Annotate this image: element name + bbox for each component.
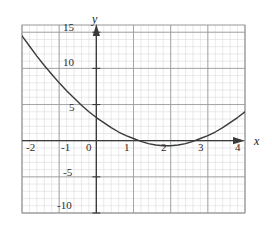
y-tick-label-15: 15	[63, 22, 74, 33]
x-tick-label-2: 2	[161, 142, 167, 153]
y-tick-label-5: 5	[69, 102, 75, 113]
coordinate-plane	[0, 0, 272, 230]
x-tick-label-4: 4	[235, 142, 241, 153]
y-tick-label--5: -5	[63, 167, 72, 178]
graph-figure: -2 -1 0 1 2 3 4 -10 -5 5 10 15 x y	[0, 0, 272, 230]
x-tick-label-3: 3	[198, 142, 204, 153]
x-tick-label--2: -2	[26, 142, 35, 153]
y-tick-label-10: 10	[63, 57, 74, 68]
y-tick-label--10: -10	[57, 200, 72, 211]
y-axis-label: y	[92, 13, 97, 25]
x-tick-label--1: -1	[61, 142, 70, 153]
x-tick-label-1: 1	[124, 142, 130, 153]
x-axis-label: x	[254, 135, 259, 147]
x-tick-label-0: 0	[86, 142, 92, 153]
